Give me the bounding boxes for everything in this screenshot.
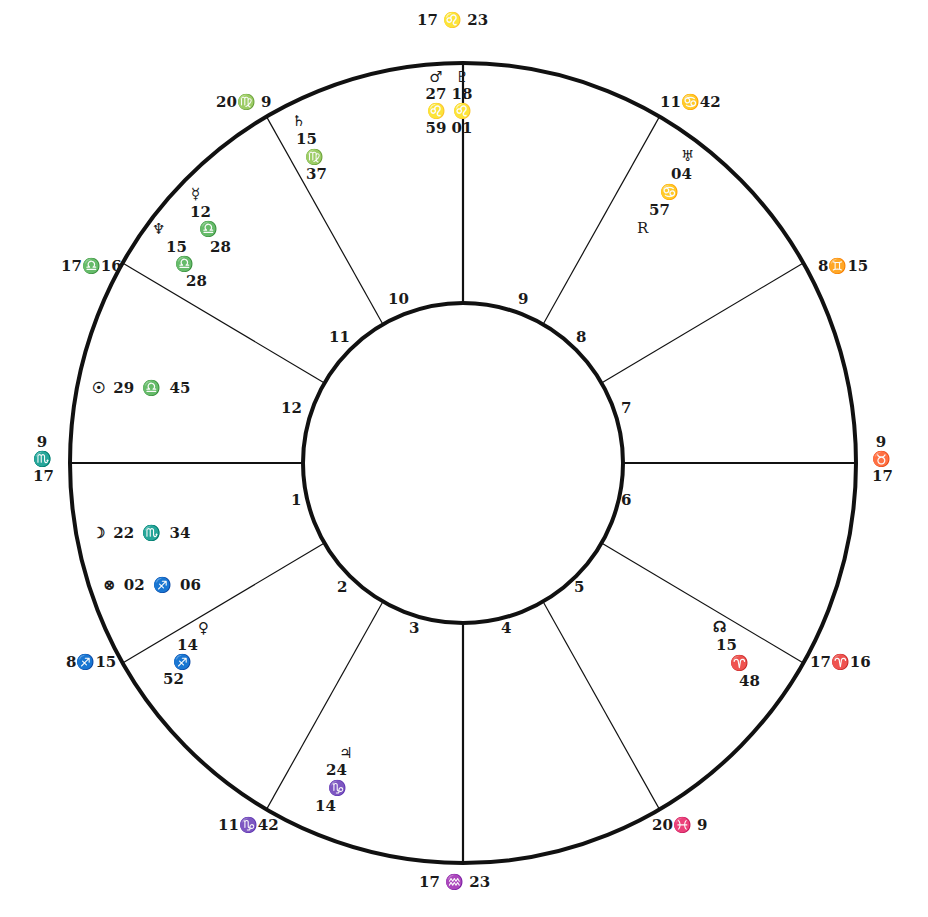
planet-moon: ☽ 22 ♏ 34	[92, 525, 190, 542]
part-of-fortune: ⊗ 02 ♐ 06	[103, 577, 201, 594]
venus-degree: 14	[177, 637, 198, 654]
house-number-10: 10	[388, 291, 409, 308]
house-number-7: 7	[621, 400, 631, 417]
cusp-label-3: 11♑42	[218, 817, 279, 834]
chart-wheel	[0, 0, 928, 917]
cusp-line	[267, 117, 384, 325]
dsc-minute: 17	[872, 468, 890, 485]
planet-mars: ♂ 27 ♌ 59	[423, 69, 449, 137]
house-number-5: 5	[574, 579, 584, 596]
cusp-line	[267, 602, 384, 810]
saturn-icon: ♄	[292, 113, 305, 130]
uranus-degree: 04	[671, 166, 692, 183]
uranus-icon: ♅	[681, 148, 694, 165]
jupiter-minute: 14	[315, 798, 336, 815]
venus-minute: 52	[163, 671, 184, 688]
uranus-minute: 57	[649, 202, 670, 219]
cusp-line	[123, 263, 325, 383]
uranus-retrograde: R	[637, 220, 648, 237]
house-number-11: 11	[329, 329, 350, 346]
capricorn-icon: ♑	[328, 780, 347, 797]
cusp-line	[123, 543, 325, 663]
cusp-line	[543, 602, 660, 810]
house-number-3: 3	[409, 620, 419, 637]
mercury-degree: 12	[190, 204, 211, 221]
neptune-degree: 15	[166, 239, 187, 256]
house-number-8: 8	[576, 329, 586, 346]
cusp-line	[602, 543, 804, 663]
leo-icon: ♌	[423, 103, 449, 120]
saturn-degree: 15	[296, 131, 317, 148]
asc-degree: 9	[33, 434, 51, 451]
inner-circle	[303, 303, 623, 623]
dsc-degree: 9	[872, 434, 890, 451]
cusp-line	[602, 263, 804, 383]
aries-icon: ♈	[730, 655, 749, 672]
planet-sun: ☉ 29 ♎ 45	[92, 380, 190, 397]
cusp-label-12: 17♎16	[61, 258, 122, 275]
venus-icon: ♀	[198, 620, 209, 637]
asc-minute: 17	[33, 468, 51, 485]
house-number-9: 9	[518, 291, 528, 308]
house-number-2: 2	[337, 579, 347, 596]
sagittarius-icon: ♐	[173, 654, 192, 671]
cusp-label-8: 8♊15	[818, 258, 868, 275]
libra-icon: ♎	[199, 221, 218, 238]
virgo-icon: ♍	[305, 149, 324, 166]
cusp-label-9: 11♋42	[660, 94, 721, 111]
asc-sign: ♏	[33, 451, 51, 468]
cancer-icon: ♋	[660, 184, 679, 201]
cusp-label-mc: 17 ♌ 23	[417, 12, 488, 29]
north-node-degree: 15	[716, 637, 737, 654]
libra-icon: ♎	[175, 256, 194, 273]
leo-icon: ♌	[449, 103, 475, 120]
mercury-icon: ☿	[191, 186, 200, 203]
north-node-icon: ☊	[713, 619, 726, 636]
cusp-label-ic: 17 ♒ 23	[419, 874, 490, 891]
cusp-label-5: 20♓ 9	[652, 817, 708, 834]
jupiter-degree: 24	[326, 762, 347, 779]
house-number-6: 6	[621, 492, 631, 509]
cusp-label-2: 8♐15	[66, 654, 116, 671]
house-number-12: 12	[281, 400, 302, 417]
cusp-label-dsc: 9 ♉ 17	[872, 434, 890, 485]
cusp-label-6: 17♈16	[810, 654, 871, 671]
neptune-icon: ♆	[152, 221, 165, 238]
cusp-label-11: 20♍ 9	[216, 94, 272, 111]
cusp-label-asc: 9 ♏ 17	[33, 434, 51, 485]
dsc-sign: ♉	[872, 451, 890, 468]
jupiter-icon: ♃	[339, 745, 352, 762]
saturn-minute: 37	[306, 166, 327, 183]
neptune-minute: 28	[186, 273, 207, 290]
mars-icon: ♂	[423, 69, 449, 86]
planet-pluto: ♇ 18 ♌ 01	[449, 69, 475, 137]
house-number-4: 4	[501, 620, 511, 637]
pluto-icon: ♇	[449, 69, 475, 86]
mercury-minute: 28	[210, 239, 231, 256]
north-node-minute: 48	[739, 673, 760, 690]
house-number-1: 1	[291, 492, 301, 509]
